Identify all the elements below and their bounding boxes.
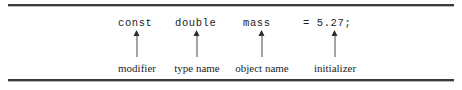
bottom-divider-rule xyxy=(8,79,454,81)
arrow-shaft xyxy=(335,35,336,57)
arrow-shaft xyxy=(137,35,138,57)
top-divider-rule xyxy=(8,4,454,6)
label-modifier: modifier xyxy=(118,60,156,76)
code-annotation-figure: const double mass = 5.27; modifier type … xyxy=(0,0,462,90)
annotation-label-row: modifier type name object name initializ… xyxy=(0,60,462,76)
label-initializer: initializer xyxy=(314,60,356,76)
code-token-type-name: double xyxy=(175,16,216,30)
code-token-modifier: const xyxy=(118,16,153,30)
code-token-initializer: = 5.27; xyxy=(303,16,351,30)
arrow-shaft xyxy=(262,35,263,57)
code-declaration-line: const double mass = 5.27; xyxy=(0,16,462,30)
label-object-name: object name xyxy=(235,60,288,76)
label-type-name: type name xyxy=(174,60,220,76)
arrow-shaft xyxy=(197,35,198,57)
code-token-object-name: mass xyxy=(243,16,271,30)
arrow-to-type-name xyxy=(193,30,202,57)
arrow-to-modifier xyxy=(133,30,142,57)
arrow-to-object-name xyxy=(258,30,267,57)
arrow-to-initializer xyxy=(331,30,340,57)
